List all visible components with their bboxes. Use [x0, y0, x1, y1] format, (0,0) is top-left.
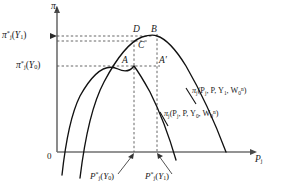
x-tick-P-star-Y1: P*j(Y1): [145, 172, 169, 182]
y-axis-title: πj: [51, 2, 58, 12]
point-label-A: A: [122, 56, 128, 66]
figure-canvas: πj Pj 0 π*j(Y1) π*j(Y0) P*j(Y0) P*j(Y1) …: [0, 0, 282, 188]
point-label-C: C: [138, 41, 144, 51]
xtick-arrow-Y0: [118, 156, 132, 174]
curve-profit-Y1: [80, 35, 226, 178]
point-label-A-prime: A′: [159, 56, 167, 66]
curve-label-profit-Y0: πj(Pj, P, Y0, W0n): [164, 110, 218, 119]
origin-label: 0: [47, 152, 52, 161]
point-label-D: D: [133, 25, 140, 35]
point-label-B: B: [151, 25, 157, 35]
y-tick-pi-star-Y0: π*j(Y0): [16, 60, 40, 70]
y-tick-pi-star-Y1: π*j(Y1): [2, 30, 26, 40]
x-tick-P-star-Y0: P*j(Y0): [90, 172, 114, 182]
x-axis-title: Pj: [255, 155, 263, 165]
curve-label-profit-Y1: πj(Pj, P, Y1, W0n): [192, 87, 246, 96]
curve-profit-Y0: [62, 66, 176, 175]
xtick-arrowhead-Y0: [128, 153, 134, 159]
hline-arrow-Y1: [50, 33, 57, 39]
